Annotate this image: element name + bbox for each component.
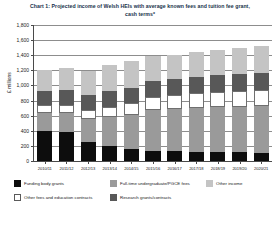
bar-segment[interactable] [37,113,52,131]
y-tick-label: 600 [21,113,29,119]
x-tick-mark [175,161,176,164]
legend-label: Other income [216,181,242,186]
bar-segment[interactable] [59,68,74,90]
bar-segment[interactable] [145,110,160,151]
bar-group[interactable] [37,25,52,161]
bar-group[interactable] [59,25,74,161]
y-axis-title: £ millions [6,72,12,93]
bar-segment[interactable] [232,152,247,161]
bar-segment[interactable] [232,74,247,91]
bar-group[interactable] [124,25,139,161]
bar-segment[interactable] [232,48,247,74]
bar-segment[interactable] [210,50,225,76]
legend-swatch-icon [14,180,21,187]
bar-group[interactable] [254,25,269,161]
plot-area: 02004006008001,0001,2001,4001,6001,800 2… [33,25,272,162]
bar-segment[interactable] [254,73,269,90]
bar-segment[interactable] [189,93,204,107]
bar-segment[interactable] [145,81,160,97]
bar-segment[interactable] [37,70,52,91]
legend-label: Other fees and education contracts [24,195,92,200]
bar-segment[interactable] [167,95,182,109]
bar-group[interactable] [81,25,96,161]
y-tick-label: 400 [21,128,29,134]
bar-segment[interactable] [189,108,204,152]
bar-segment[interactable] [59,132,74,161]
legend-swatch-icon [206,180,213,187]
bar-segment[interactable] [254,46,269,73]
bar-group[interactable] [210,25,225,161]
x-tick-label: 2010/11 [38,166,52,171]
bar-segment[interactable] [167,151,182,161]
bar-segment[interactable] [59,105,74,113]
bar-segment[interactable] [232,107,247,153]
bar-segment[interactable] [102,91,117,106]
bar-segment[interactable] [254,106,269,153]
bar-segment[interactable] [124,61,139,87]
bar-segment[interactable] [167,55,182,79]
bar-segment[interactable] [81,71,96,95]
bar-segment[interactable] [254,90,269,106]
legend-swatch-icon [110,180,117,187]
bar-segment[interactable] [189,52,204,77]
x-tick-mark [45,161,46,164]
bar-series-layer [34,25,272,161]
legend-label: Full-time undergraduate/PGCE fees [120,181,190,186]
bar-group[interactable] [232,25,247,161]
bar-segment[interactable] [210,107,225,152]
y-tick-mark [31,161,34,162]
legend-item[interactable]: Other fees and education contracts [14,194,92,201]
bar-segment[interactable] [167,109,182,152]
bar-segment[interactable] [254,153,269,161]
x-tick-mark [196,161,197,164]
bar-segment[interactable] [210,152,225,161]
bar-segment[interactable] [59,113,74,132]
y-tick-label: 1,800 [16,22,29,28]
bar-group[interactable] [167,25,182,161]
bar-segment[interactable] [145,151,160,161]
y-tick-label: 200 [21,143,29,149]
bar-segment[interactable] [189,152,204,161]
legend-item[interactable]: Research grants/contracts [110,194,171,201]
bar-segment[interactable] [81,110,96,119]
bar-segment[interactable] [37,105,52,113]
bar-segment[interactable] [167,79,182,95]
x-tick-mark [110,161,111,164]
bar-group[interactable] [102,25,117,161]
legend-item[interactable]: Funding body grants [14,180,64,187]
bar-segment[interactable] [59,90,74,105]
bar-segment[interactable] [102,117,117,146]
bar-segment[interactable] [102,65,117,91]
bar-segment[interactable] [124,149,139,161]
bar-segment[interactable] [124,88,139,103]
bar-segment[interactable] [37,131,52,161]
bar-segment[interactable] [210,92,225,107]
x-tick-mark [88,161,89,164]
bar-segment[interactable] [232,91,247,107]
bar-segment[interactable] [145,56,160,81]
bar-segment[interactable] [189,77,204,93]
x-tick-label: 2013/14 [103,166,117,171]
x-tick-label: 2019/20 [232,166,246,171]
x-tick-mark [131,161,132,164]
bar-segment[interactable] [81,95,96,110]
x-tick-label: 2014/15 [124,166,138,171]
bar-segment[interactable] [102,107,117,117]
x-tick-label: 2018/19 [211,166,225,171]
bar-segment[interactable] [37,91,52,105]
bar-segment[interactable] [102,146,117,161]
x-tick-label: 2012/13 [81,166,95,171]
bar-segment[interactable] [81,142,96,161]
legend-swatch-icon [110,194,117,201]
y-tick-label: 800 [21,98,29,104]
bar-group[interactable] [145,25,160,161]
x-tick-label: 2011/12 [59,166,73,171]
bar-segment[interactable] [145,97,160,110]
legend-item[interactable]: Full-time undergraduate/PGCE fees [110,180,190,187]
legend-item[interactable]: Other income [206,180,242,187]
bar-segment[interactable] [210,75,225,92]
bar-group[interactable] [189,25,204,161]
bar-segment[interactable] [124,103,139,115]
bar-segment[interactable] [81,119,96,142]
bar-segment[interactable] [124,115,139,149]
